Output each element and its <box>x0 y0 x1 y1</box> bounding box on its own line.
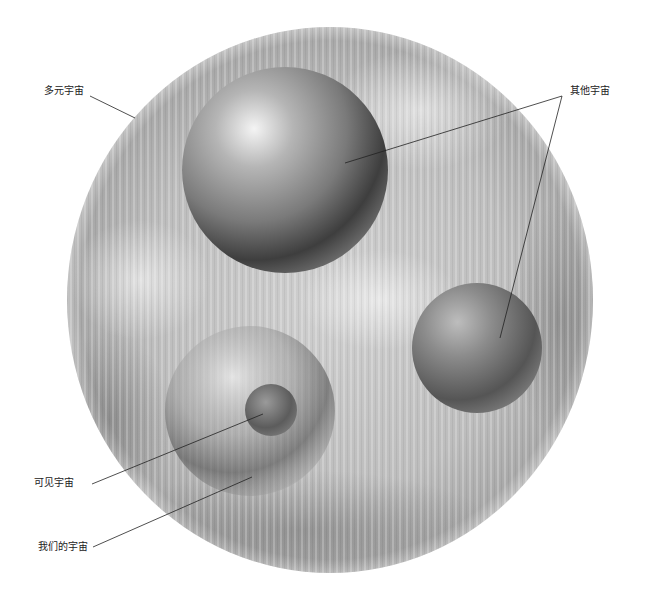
label-other-universes: 其他宇宙 <box>570 86 610 96</box>
label-multiverse: 多元宇宙 <box>44 86 84 96</box>
other-universe-sphere-small <box>412 283 542 413</box>
multiverse-diagram <box>0 0 652 610</box>
leader-line-multiverse <box>90 96 135 118</box>
label-our-universe: 我们的宇宙 <box>38 542 88 552</box>
our-universe-sphere <box>245 384 297 436</box>
label-observable-universe: 可见宇宙 <box>34 478 74 488</box>
other-universe-sphere-large <box>182 67 388 273</box>
